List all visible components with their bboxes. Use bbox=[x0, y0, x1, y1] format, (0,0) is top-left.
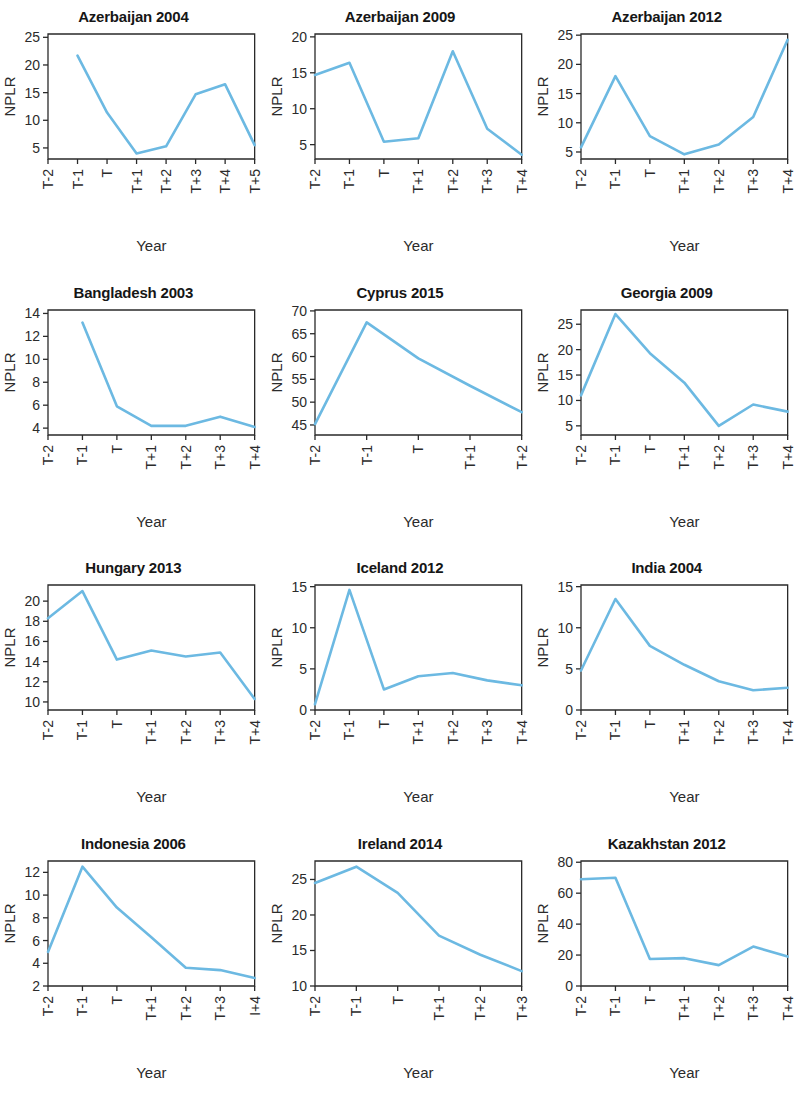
y-tick-label: 15 bbox=[291, 65, 307, 81]
x-tick-label: T+2 bbox=[158, 169, 174, 194]
y-tick-label: 20 bbox=[558, 56, 574, 72]
x-tick-label: T+1 bbox=[677, 995, 693, 1020]
x-axis-label: Year bbox=[670, 237, 700, 254]
x-tick-label: T+1 bbox=[410, 169, 426, 194]
plot-frame bbox=[48, 585, 255, 710]
chart-plot: 510152025NPLRT-2T-1TT+1T+2T+3T+4Year bbox=[533, 276, 800, 552]
y-axis-label: NPLR bbox=[534, 76, 551, 116]
x-tick-label: T+3 bbox=[212, 720, 228, 745]
y-tick-label: 15 bbox=[291, 579, 307, 595]
x-tick-label: T-2 bbox=[307, 995, 323, 1015]
x-tick-label: T+5 bbox=[247, 169, 263, 194]
y-tick-label: 0 bbox=[299, 702, 307, 718]
chart-plot: 510152025NPLRT-2T-1TT+1T+2T+3T+4T+5Year bbox=[0, 0, 267, 276]
x-tick-label: T+1 bbox=[143, 995, 159, 1020]
y-tick-label: 0 bbox=[566, 977, 574, 993]
y-tick-label: 5 bbox=[299, 137, 307, 153]
y-tick-label: 6 bbox=[32, 397, 40, 413]
y-tick-label: 18 bbox=[24, 613, 40, 629]
x-tick-label: T+3 bbox=[212, 444, 228, 469]
y-tick-label: 25 bbox=[24, 29, 40, 45]
y-tick-label: 10 bbox=[558, 115, 574, 131]
plot-frame bbox=[315, 310, 522, 435]
x-axis-label: Year bbox=[136, 512, 166, 529]
y-tick-label: 60 bbox=[558, 885, 574, 901]
x-tick-label: T+3 bbox=[513, 995, 529, 1020]
x-tick-label: T+2 bbox=[444, 169, 460, 194]
x-tick-label: T+2 bbox=[472, 995, 488, 1020]
x-tick-label: T+1 bbox=[410, 720, 426, 745]
y-tick-label: 8 bbox=[32, 909, 40, 925]
y-tick-label: 20 bbox=[291, 906, 307, 922]
x-tick-label: T-1 bbox=[70, 169, 86, 189]
chart-panel: Hungary 2013101214161820NPLRT-2T-1TT+1T+… bbox=[0, 551, 267, 827]
y-tick-label: 5 bbox=[566, 661, 574, 677]
x-tick-label: T-1 bbox=[74, 720, 90, 740]
x-tick-label: T-1 bbox=[608, 720, 624, 740]
x-axis-label: Year bbox=[670, 788, 700, 805]
x-tick-label: T+1 bbox=[143, 720, 159, 745]
y-tick-label: 65 bbox=[291, 325, 307, 341]
y-tick-label: 5 bbox=[566, 417, 574, 433]
x-tick-label: T+1 bbox=[143, 444, 159, 469]
data-series-line bbox=[315, 51, 522, 154]
data-series-line bbox=[315, 590, 522, 704]
y-tick-label: 10 bbox=[291, 620, 307, 636]
x-axis-label: Year bbox=[136, 1063, 166, 1080]
x-tick-label: T+1 bbox=[677, 720, 693, 745]
chart-panel: Iceland 2012051015NPLRT-2T-1TT+1T+2T+3T+… bbox=[267, 551, 534, 827]
x-tick-label: T+2 bbox=[444, 720, 460, 745]
y-tick-label: 15 bbox=[291, 942, 307, 958]
y-tick-label: 45 bbox=[291, 416, 307, 432]
y-tick-label: 55 bbox=[291, 371, 307, 387]
y-tick-label: 15 bbox=[558, 367, 574, 383]
y-tick-label: 4 bbox=[32, 955, 40, 971]
x-tick-label: T-2 bbox=[307, 169, 323, 189]
x-tick-label: I+4 bbox=[247, 995, 263, 1015]
y-tick-label: 25 bbox=[558, 27, 574, 43]
chart-plot: 051015NPLRT-2T-1TT+1T+2T+3T+4Year bbox=[533, 551, 800, 827]
x-tick-label: T-1 bbox=[74, 995, 90, 1015]
y-tick-label: 5 bbox=[299, 661, 307, 677]
data-series-line bbox=[315, 322, 522, 424]
y-tick-label: 20 bbox=[291, 29, 307, 45]
chart-panel: Azerbaijan 20095101520NPLRT-2T-1TT+1T+2T… bbox=[267, 0, 534, 276]
y-axis-label: NPLR bbox=[1, 903, 18, 943]
y-tick-label: 20 bbox=[24, 593, 40, 609]
chart-panel: Georgia 2009510152025NPLRT-2T-1TT+1T+2T+… bbox=[533, 276, 800, 552]
x-tick-label: T+2 bbox=[178, 995, 194, 1020]
y-tick-label: 25 bbox=[291, 871, 307, 887]
y-tick-label: 20 bbox=[24, 57, 40, 73]
chart-panel: Indonesia 200624681012NPLRT-2T-1TT+1T+2T… bbox=[0, 827, 267, 1102]
x-tick-label: T-1 bbox=[358, 444, 374, 464]
y-tick-label: 60 bbox=[291, 348, 307, 364]
x-tick-label: T-1 bbox=[74, 444, 90, 464]
y-tick-label: 15 bbox=[558, 579, 574, 595]
x-axis-label: Year bbox=[670, 512, 700, 529]
x-tick-label: T-1 bbox=[348, 995, 364, 1015]
data-series-line bbox=[78, 56, 255, 154]
y-axis-label: NPLR bbox=[534, 903, 551, 943]
x-tick-label: T bbox=[642, 169, 658, 178]
y-tick-label: 10 bbox=[291, 101, 307, 117]
chart-plot: 24681012NPLRT-2T-1TT+1T+2T+3I+4Year bbox=[0, 827, 267, 1102]
x-tick-label: T+3 bbox=[746, 995, 762, 1020]
y-tick-label: 14 bbox=[24, 654, 40, 670]
y-tick-label: 16 bbox=[24, 633, 40, 649]
y-axis-label: NPLR bbox=[268, 903, 285, 943]
y-tick-label: 10 bbox=[24, 694, 40, 710]
y-tick-label: 5 bbox=[566, 144, 574, 160]
x-tick-label: T-2 bbox=[40, 444, 56, 464]
data-series-line bbox=[581, 314, 788, 426]
y-axis-label: NPLR bbox=[534, 627, 551, 667]
x-tick-label: T-2 bbox=[40, 995, 56, 1015]
x-tick-label: T-1 bbox=[608, 444, 624, 464]
data-series-line bbox=[581, 40, 788, 154]
x-axis-label: Year bbox=[403, 788, 433, 805]
data-series-line bbox=[48, 866, 255, 977]
x-tick-label: T+2 bbox=[711, 720, 727, 745]
x-tick-label: T+4 bbox=[247, 720, 263, 745]
x-tick-label: T bbox=[109, 995, 125, 1004]
x-tick-label: T+3 bbox=[479, 720, 495, 745]
x-tick-label: T+1 bbox=[431, 995, 447, 1020]
